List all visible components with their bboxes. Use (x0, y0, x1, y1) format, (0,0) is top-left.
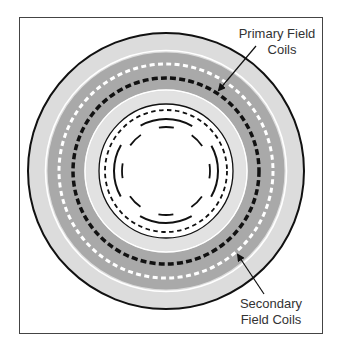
secondary-field-coils-label: Secondary Field Coils (236, 296, 306, 328)
secondary-label-line2: Field Coils (236, 312, 306, 328)
primary-label-line2: Coils (236, 42, 318, 58)
primary-field-coils-label: Primary Field Coils (236, 26, 318, 58)
secondary-label-line1: Secondary (236, 296, 306, 312)
primary-label-line1: Primary Field (236, 26, 318, 42)
inner-bore (99, 104, 233, 238)
